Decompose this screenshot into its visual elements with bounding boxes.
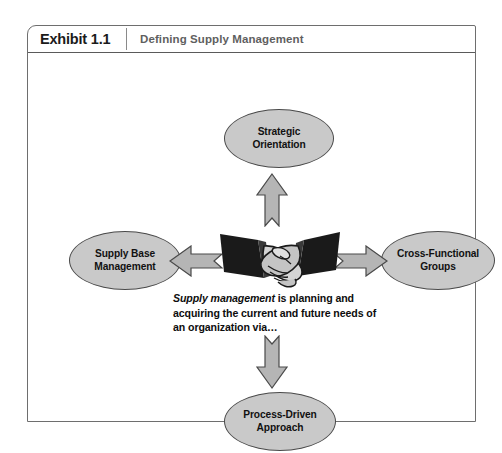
arrow-down-icon [256, 335, 288, 389]
node-label-line1: Process-Driven [238, 409, 321, 421]
node-supply-base-management: Supply Base Management [69, 231, 181, 290]
node-label-line2: Management [89, 261, 160, 273]
handshake-icon [218, 226, 342, 294]
definition-text: Supply management is planning and acquir… [173, 291, 388, 335]
exhibit-header: Exhibit 1.1 Defining Supply Management [28, 26, 475, 53]
node-strategic-orientation: Strategic Orientation [224, 109, 334, 168]
exhibit-figure: Exhibit 1.1 Defining Supply Management S… [0, 0, 502, 453]
definition-term: Supply management [173, 292, 275, 304]
exhibit-frame: Exhibit 1.1 Defining Supply Management S… [27, 25, 476, 422]
header-divider [126, 28, 127, 50]
node-label-line2: Orientation [247, 139, 310, 151]
exhibit-title: Defining Supply Management [140, 33, 304, 45]
node-cross-functional-groups: Cross-Functional Groups [381, 231, 495, 290]
exhibit-number-label: Exhibit 1.1 [28, 31, 126, 47]
diagram-canvas: Strategic Orientation Supply Base Manage… [28, 53, 475, 421]
node-label-line1: Cross-Functional [392, 248, 484, 260]
arrow-up-icon [256, 173, 288, 227]
arrow-right-icon [334, 245, 388, 277]
node-label-line2: Approach [238, 422, 321, 434]
node-label-line1: Strategic [247, 126, 310, 138]
node-process-driven-approach: Process-Driven Approach [224, 392, 336, 451]
node-label-line2: Groups [392, 261, 484, 273]
arrow-left-icon [169, 245, 223, 277]
node-label-line1: Supply Base [89, 248, 160, 260]
